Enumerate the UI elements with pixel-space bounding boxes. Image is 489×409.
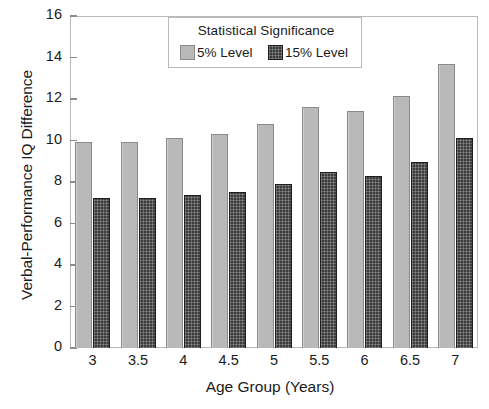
y-tick-mark (70, 98, 77, 100)
bar (121, 142, 138, 348)
y-tick-mark (70, 57, 77, 59)
bar (75, 142, 92, 348)
bar (456, 138, 473, 348)
legend-label-5-percent: 5% Level (197, 45, 253, 60)
x-axis-title: Age Group (Years) (60, 378, 480, 396)
bar (229, 192, 246, 348)
bar (438, 64, 455, 348)
legend-swatch-5-percent-icon (180, 45, 195, 60)
legend: Statistical Significance 5% Level 15% Le… (168, 17, 362, 68)
bar (302, 107, 319, 348)
bar (365, 176, 382, 348)
bar (257, 124, 274, 348)
bar (93, 198, 110, 348)
legend-label-15-percent: 15% Level (285, 45, 348, 60)
bar (166, 138, 183, 348)
legend-entry-15-percent: 15% Level (268, 45, 348, 60)
x-tick-label: 7 (425, 352, 485, 368)
bar (184, 195, 201, 348)
legend-swatch-15-percent-icon (268, 45, 283, 60)
bar (211, 134, 228, 348)
y-tick-mark (70, 15, 77, 17)
legend-title: Statistical Significance (169, 23, 363, 38)
bar (320, 172, 337, 348)
legend-entry-5-percent: 5% Level (180, 45, 253, 60)
bar-chart: 0246810121416 33.544.555.566.57 Statisti… (0, 0, 489, 409)
y-axis-title: Verbal-Performance IQ Difference (18, 20, 36, 350)
bar (139, 198, 156, 348)
bar (275, 184, 292, 348)
bar (393, 96, 410, 348)
bar (347, 111, 364, 348)
bar (411, 162, 428, 348)
